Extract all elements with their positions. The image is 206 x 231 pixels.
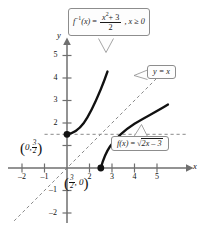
f-inverse-fraction: x2+ 3 2 xyxy=(100,12,121,32)
y-axis-arrowhead xyxy=(63,38,71,46)
point-label-three-halves-zero: (32, 0) xyxy=(64,175,89,190)
x-tick-label-4: 4 xyxy=(129,173,140,181)
paren-close-a: ) xyxy=(37,140,42,156)
y-tick-label-5: 5 xyxy=(50,51,61,59)
f-arg: (x) xyxy=(119,139,128,148)
x-tick-label-neg2: –2 xyxy=(14,173,30,181)
function-inverse-figure: y x –2 –1 2 3 4 5 5 4 3 2 –1 –2 f–1(x) =… xyxy=(0,0,206,231)
y-tick-label-3: 3 xyxy=(50,96,61,104)
f-radicand: 2x – 3 xyxy=(141,138,163,148)
x-tick-label-neg1: –1 xyxy=(37,173,53,181)
f-inverse-domain: , x ≥ 0 xyxy=(124,17,144,26)
f-equals: = xyxy=(130,139,135,148)
dot-point-three-halves-zero xyxy=(97,165,104,172)
leader-line-f xyxy=(134,125,148,137)
y-tick-label-neg2: –2 xyxy=(45,209,61,217)
f-inverse-num-rest: + 3 xyxy=(109,13,120,22)
paren-close-b: ) xyxy=(84,175,89,191)
curve-f-inverse xyxy=(67,72,108,135)
y-tick-label-neg1: –1 xyxy=(45,186,61,194)
f-inverse-denominator: 2 xyxy=(100,23,121,32)
y-tick-label-4: 4 xyxy=(50,74,61,82)
y-equals-x-text: y = x xyxy=(153,67,170,76)
point-a-x: 0, xyxy=(25,142,32,152)
y-axis-label: y xyxy=(57,30,61,40)
point-b-y: , 0 xyxy=(75,177,84,187)
x-tick-label-5: 5 xyxy=(152,173,163,181)
f-callout: f(x) = √2x – 3 xyxy=(111,136,169,151)
point-label-zero-three-halves: (0,32) xyxy=(20,140,42,155)
f-inverse-numerator: x2+ 3 xyxy=(100,12,121,23)
x-axis-label: x xyxy=(193,161,197,171)
f-inverse-callout: f–1(x) = x2+ 3 2 , x ≥ 0 xyxy=(68,8,150,36)
x-tick-label-3: 3 xyxy=(107,173,118,181)
leader-line-f-inverse xyxy=(99,39,114,53)
y-equals-x-callout: y = x xyxy=(147,65,176,79)
leader-line-y-equals-x xyxy=(134,70,148,80)
y-tick-label-2: 2 xyxy=(50,119,61,127)
f-inverse-equals: = xyxy=(92,17,97,26)
f-inverse-arg: (x) xyxy=(81,17,90,26)
dot-point-zero-three-halves xyxy=(64,131,71,138)
